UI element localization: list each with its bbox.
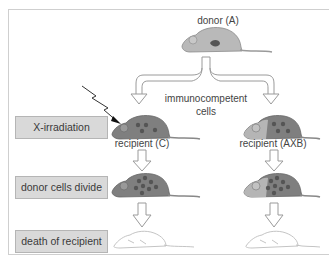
recipient-c-mouse-icon [112,115,200,139]
dead-mouse-c-icon [114,231,194,248]
recipient-axb-mouse-icon [244,115,320,139]
recipient-c-label: recipient (C) [110,138,174,149]
recipient-c-cells-divide-mouse-icon [112,173,200,197]
recipient-axb-cells-divide-mouse-icon [244,173,320,197]
donor-mouse-icon [182,27,272,52]
cells-label: cells [164,106,248,117]
step-x-irradiation: X-irradiation [15,116,108,139]
step-death-of-recipient: death of recipient [15,230,108,253]
down-arrow-icon [133,150,283,171]
dead-mouse-axb-icon [246,231,320,248]
immunocompetent-label: immunocompetent [164,93,248,104]
recipient-axb-label: recipient (AXB) [236,138,310,149]
down-arrow-icon [133,203,283,227]
donor-label: donor (A) [188,15,248,26]
step-donor-cells-divide: donor cells divide [15,176,108,199]
